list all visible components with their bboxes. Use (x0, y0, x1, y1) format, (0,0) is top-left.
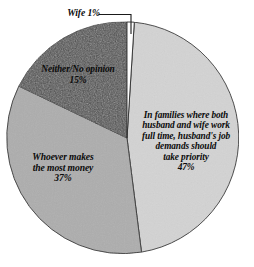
pie-label-most-money: Whoever makes the most money 37% (14, 152, 112, 184)
pie-label-wife: Wife 1% (40, 8, 100, 19)
pie-label-husband-priority: In families where both husband and wife … (131, 110, 241, 172)
pie-label-neither-no-opinion: Neither/No opinion 15% (24, 64, 132, 85)
pie-chart-figure: In families where both husband and wife … (0, 0, 254, 267)
